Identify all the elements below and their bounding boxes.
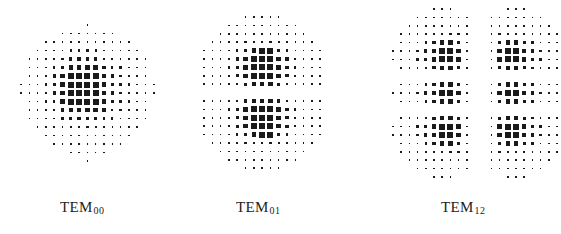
intensity-dot: [37, 67, 39, 69]
intensity-dot: [94, 57, 97, 60]
intensity-dot: [212, 142, 214, 144]
intensity-dot: [86, 57, 89, 60]
intensity-dot: [457, 117, 460, 120]
intensity-dot: [506, 141, 511, 146]
intensity-dot: [532, 17, 534, 19]
intensity-dot: [311, 100, 313, 102]
intensity-dot: [303, 58, 305, 60]
intensity-dot: [220, 58, 222, 60]
intensity-dot: [203, 134, 205, 136]
intensity-dot: [128, 50, 130, 52]
intensity-dot: [523, 66, 526, 69]
intensity-dot: [303, 125, 305, 127]
intensity-dot: [319, 58, 321, 60]
intensity-dot: [433, 168, 435, 170]
intensity-dot: [556, 84, 558, 86]
intensity-dot: [145, 118, 147, 120]
intensity-dot: [203, 125, 205, 127]
intensity-dot: [456, 49, 461, 54]
intensity-dot: [439, 124, 445, 130]
intensity-dot: [278, 41, 280, 43]
intensity-dot: [513, 48, 519, 54]
intensity-dot: [45, 75, 47, 77]
intensity-dot: [448, 141, 453, 146]
intensity-dot: [145, 101, 147, 103]
intensity-dot: [514, 66, 519, 71]
intensity-dot: [111, 100, 114, 103]
intensity-dot: [409, 67, 411, 69]
intensity-dot: [220, 109, 222, 111]
intensity-dot: [303, 117, 305, 119]
intensity-dot: [319, 109, 321, 111]
intensity-dot: [392, 92, 394, 94]
intensity-dot: [303, 109, 305, 111]
intensity-dot: [466, 117, 468, 119]
intensity-dot: [228, 41, 230, 43]
intensity-dot: [491, 17, 493, 19]
intensity-dot: [425, 117, 427, 119]
intensity-dot: [93, 73, 99, 79]
intensity-dot: [259, 64, 265, 70]
intensity-dot: [236, 83, 238, 85]
intensity-dot: [425, 33, 427, 35]
intensity-dot: [311, 142, 313, 144]
intensity-dot: [440, 99, 445, 104]
intensity-dot: [466, 17, 468, 19]
intensity-dot: [458, 17, 460, 19]
intensity-dot: [491, 126, 493, 128]
intensity-dot: [220, 67, 222, 69]
intensity-dot: [212, 117, 214, 119]
intensity-dot: [84, 99, 90, 105]
intensity-dot: [392, 59, 394, 61]
intensity-dot: [145, 67, 147, 69]
intensity-dot: [441, 176, 443, 178]
intensity-dot: [424, 133, 427, 136]
intensity-dot: [523, 25, 525, 27]
intensity-dot: [303, 75, 305, 77]
intensity-dot: [270, 167, 272, 169]
intensity-dot: [425, 151, 427, 153]
intensity-dot: [523, 168, 525, 170]
intensity-dot: [295, 83, 297, 85]
intensity-dot: [145, 84, 147, 86]
intensity-dot: [260, 99, 265, 104]
intensity-dot: [244, 83, 247, 86]
intensity-dot: [286, 159, 288, 161]
intensity-dot: [466, 67, 468, 69]
intensity-dot: [540, 25, 542, 27]
intensity-dot: [447, 56, 453, 62]
intensity-dot: [276, 124, 281, 129]
intensity-dot: [103, 152, 105, 154]
intensity-dot: [269, 142, 271, 144]
intensity-dot: [76, 90, 82, 96]
intensity-dot: [432, 66, 435, 69]
intensity-dot: [285, 116, 288, 119]
intensity-dot: [432, 124, 437, 129]
intensity-dot: [548, 25, 550, 27]
intensity-dot: [409, 151, 411, 153]
intensity-dot: [93, 82, 99, 88]
intensity-dot: [449, 33, 451, 35]
intensity-dot: [78, 143, 80, 145]
intensity-dot: [37, 75, 39, 77]
intensity-dot: [523, 8, 525, 10]
intensity-dot: [303, 142, 305, 144]
intensity-dot: [245, 16, 247, 18]
intensity-dot: [112, 41, 114, 43]
intensity-dot: [523, 33, 525, 35]
intensity-dot: [136, 109, 138, 111]
intensity-dot: [37, 84, 39, 86]
intensity-dot: [244, 142, 246, 144]
intensity-dot: [270, 16, 272, 18]
intensity-dot: [531, 41, 533, 43]
intensity-dot: [93, 90, 99, 96]
intensity-dot: [522, 49, 527, 54]
intensity-dot: [458, 159, 460, 161]
intensity-dot: [523, 17, 525, 19]
intensity-dot: [409, 117, 411, 119]
intensity-dot: [120, 143, 122, 145]
intensity-dot: [243, 124, 248, 129]
intensity-dot: [95, 143, 97, 145]
intensity-dot: [294, 108, 296, 110]
intensity-dot: [212, 50, 214, 52]
